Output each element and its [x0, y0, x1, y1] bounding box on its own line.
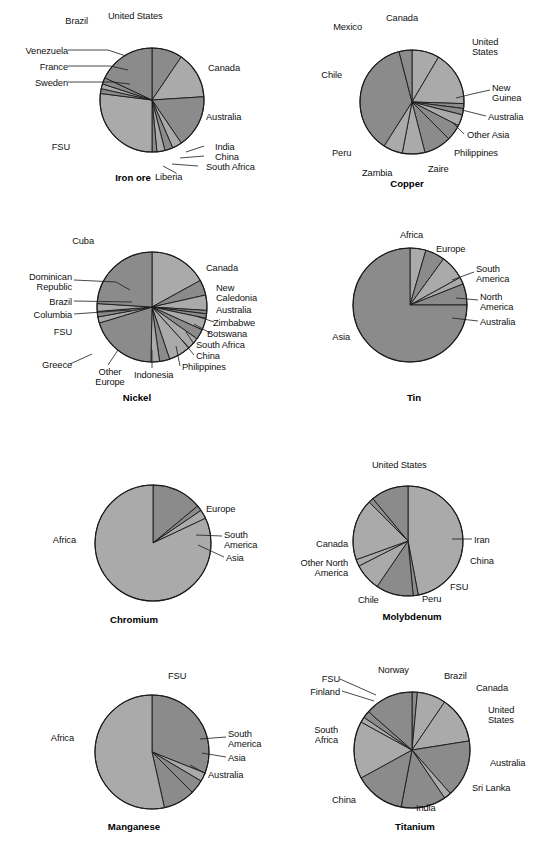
label-south-africa: South Africa: [206, 162, 255, 172]
label-china: China: [332, 795, 356, 805]
label-zaire: Zaire: [428, 164, 449, 174]
label-venezuela: Venezuela: [0, 46, 68, 56]
label-other-europe: Other Europe: [84, 367, 136, 387]
leader-line: [108, 350, 118, 365]
label-india: India: [215, 142, 235, 152]
chart-title-copper: Copper: [372, 178, 442, 189]
chart-title-tin: Tin: [386, 392, 442, 403]
label-zambia: Zambia: [362, 168, 392, 178]
label-united-states: United States: [488, 705, 514, 725]
label-peru: Peru: [332, 148, 351, 158]
label-asia: Asia: [294, 332, 350, 342]
label-brazil: Brazil: [0, 297, 72, 307]
chart-manganese: FSU South America Asia Australia Africa …: [0, 643, 276, 843]
label-canada: Canada: [386, 13, 418, 23]
chart-title-molybdenum: Molybdenum: [364, 611, 460, 622]
label-north-america: North America: [480, 292, 513, 312]
pie-slice: [97, 252, 152, 307]
label-sweden: Sweden: [0, 78, 68, 88]
label-canada: Canada: [278, 539, 348, 549]
chart-iron-ore: Brazil United States Venezuela France Sw…: [0, 0, 276, 210]
label-south-america: South America: [228, 729, 261, 749]
label-other-asia: Other Asia: [467, 130, 509, 140]
label-south-africa: South Africa: [196, 340, 245, 350]
label-fsu: FSU: [26, 142, 70, 152]
label-indonesia: Indonesia: [134, 370, 173, 380]
label-fsu: FSU: [168, 671, 186, 681]
leader-line: [70, 354, 92, 364]
label-china: China: [196, 351, 220, 361]
label-brazil: Brazil: [20, 16, 88, 26]
label-brazil: Brazil: [444, 671, 467, 681]
label-botswana: Botswana: [207, 329, 247, 339]
leader-line: [342, 691, 374, 701]
label-united-states: United States: [472, 37, 498, 58]
label-new-caledonia: New Caledonia: [216, 283, 257, 303]
label-norway: Norway: [378, 665, 409, 675]
chart-titanium: Norway Brazil Canada United States Austr…: [276, 643, 552, 843]
chart-title-iron-ore: Iron ore: [98, 172, 168, 183]
label-zimbabwe: Zimbabwe: [213, 318, 255, 328]
chart-tin: Africa Europe South America North Americ…: [276, 210, 552, 420]
label-australia: Australia: [488, 112, 523, 122]
label-sri-lanka: Sri Lanka: [472, 783, 510, 793]
pie-slice: [408, 486, 463, 595]
label-dominican-republic: Dominican Republic: [0, 272, 72, 292]
label-finland: Finland: [276, 687, 340, 697]
leader-line: [462, 110, 486, 116]
label-greece: Greece: [14, 360, 72, 370]
leader-line: [186, 146, 204, 152]
label-australia: Australia: [206, 112, 241, 122]
label-australia: Australia: [480, 317, 515, 327]
label-africa: Africa: [400, 230, 423, 240]
label-south-america: South America: [476, 264, 509, 284]
chart-title-nickel: Nickel: [104, 392, 170, 403]
label-philippines: Philippines: [454, 148, 498, 158]
leader-line: [180, 156, 204, 158]
label-south-america: South America: [224, 530, 257, 550]
chart-copper: Mexico Canada United States New Guinea A…: [276, 0, 552, 210]
label-iran: Iran: [474, 535, 490, 545]
chart-molybdenum: United States Iran China FSU Peru Chile …: [276, 425, 552, 635]
chart-nickel: Cuba Dominican Republic Brazil Columbia …: [0, 210, 276, 420]
leader-line: [340, 679, 376, 695]
label-philippines: Philippines: [182, 362, 226, 372]
label-europe: Europe: [206, 504, 235, 514]
label-china: China: [215, 152, 239, 162]
label-columbia: Columbia: [0, 310, 72, 320]
label-europe: Europe: [436, 244, 465, 254]
chart-title-chromium: Chromium: [96, 614, 172, 625]
pie-slice: [100, 93, 152, 152]
label-united-states: United States: [372, 460, 427, 470]
label-africa: Africa: [12, 733, 74, 743]
label-australia: Australia: [490, 758, 525, 768]
label-france: France: [0, 62, 68, 72]
label-fsu: FSU: [14, 327, 72, 337]
label-canada: Canada: [208, 63, 240, 73]
label-new-guinea: New Guinea: [492, 83, 521, 104]
label-chile: Chile: [358, 595, 379, 605]
label-mexico: Mexico: [296, 22, 362, 32]
label-china: China: [470, 556, 494, 566]
label-africa: Africa: [14, 535, 76, 545]
leader-line: [172, 164, 198, 166]
label-peru: Peru: [422, 594, 441, 604]
label-south-africa: South Africa: [276, 725, 338, 745]
pie-chart-grid: Brazil United States Venezuela France Sw…: [0, 0, 552, 843]
label-canada: Canada: [206, 263, 238, 273]
label-united-states: United States: [108, 11, 163, 21]
label-asia: Asia: [226, 553, 244, 563]
label-asia: Asia: [228, 753, 246, 763]
chart-title-titanium: Titanium: [374, 821, 456, 832]
label-australia: Australia: [208, 770, 243, 780]
label-india: India: [416, 803, 436, 813]
chart-title-manganese: Manganese: [92, 821, 176, 832]
leader-line: [68, 50, 126, 56]
label-canada: Canada: [476, 683, 508, 693]
label-cuba: Cuba: [30, 236, 94, 246]
label-other-north-america: Other North America: [276, 558, 348, 578]
label-fsu: FSU: [290, 674, 340, 684]
label-chile: Chile: [284, 70, 342, 80]
chart-chromium: Europe South America Asia Africa Chromiu…: [0, 425, 276, 635]
label-fsu: FSU: [450, 582, 468, 592]
